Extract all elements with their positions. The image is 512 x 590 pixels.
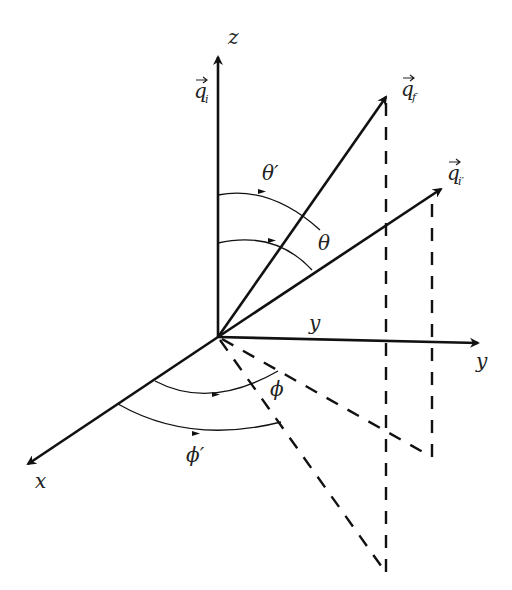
theta-prime-arrow xyxy=(258,189,266,194)
phi-prime-label: ϕ′ xyxy=(186,443,205,467)
phi-label: ϕ xyxy=(270,377,284,401)
svg-text:i: i xyxy=(205,93,209,106)
y-axis xyxy=(218,337,478,343)
phi-prime-arrow xyxy=(192,431,200,436)
y-inner-label: y xyxy=(308,311,321,335)
y-axis-label: y xyxy=(475,349,488,373)
theta-arc xyxy=(218,240,312,270)
z-axis-label: z xyxy=(227,25,239,49)
coordinate-diagram: z y y x q i q f q i′ θ′ θ ϕ ϕ′ xyxy=(0,0,512,590)
q-i-prime-vector xyxy=(218,189,441,337)
svg-text:i′: i′ xyxy=(458,175,465,188)
q-i-label: q i xyxy=(194,77,209,106)
x-axis-label: x xyxy=(35,469,46,493)
phi-prime-arc xyxy=(118,404,281,430)
svg-text:f: f xyxy=(411,91,418,104)
theta-arrow xyxy=(268,238,276,243)
phi-arc xyxy=(155,371,278,393)
theta-prime-label: θ′ xyxy=(262,161,279,185)
q-f-vector xyxy=(218,97,386,337)
projection-lines xyxy=(220,100,432,572)
theta-label: θ xyxy=(318,231,330,255)
q-f-label: q f xyxy=(401,75,418,104)
q-i-prime-label: q i′ xyxy=(447,159,465,188)
